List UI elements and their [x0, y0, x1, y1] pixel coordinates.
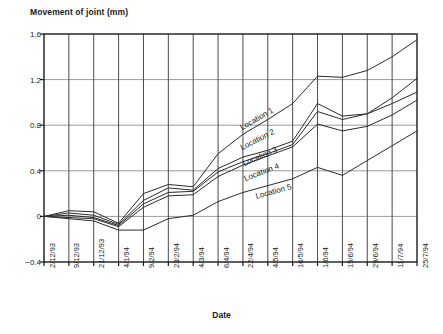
- x-tick-label: 4/1/94: [122, 247, 131, 268]
- y-axis-tick-labels: −0.400.40.81.21.6: [0, 0, 41, 334]
- x-tick-label: 4/3/94: [197, 247, 206, 268]
- x-tick-label: 9/12/93: [72, 243, 81, 268]
- y-tick-label: −0.4: [25, 258, 41, 267]
- plot-frame: [44, 34, 417, 262]
- x-tick-label: 9/2/94: [147, 247, 156, 268]
- x-tick-label: 21/12/93: [97, 239, 106, 268]
- x-tick-label: 1/6/94: [321, 247, 330, 268]
- y-tick-label: 1.6: [30, 30, 41, 39]
- x-tick-label: 29/6/94: [371, 243, 380, 268]
- y-tick-label: 1.2: [30, 75, 41, 84]
- x-tick-label: 25/7/94: [421, 243, 430, 268]
- x-tick-label: 23/2/94: [172, 243, 181, 268]
- y-tick-label: 0: [37, 212, 41, 221]
- x-tick-label: 2/12/93: [48, 243, 57, 268]
- axis-ticks: [40, 34, 417, 266]
- x-tick-label: 6/4/94: [222, 247, 231, 268]
- plot-area: [0, 0, 443, 334]
- chart-title: Movement of joint (mm): [30, 7, 128, 17]
- x-tick-label: 15/6/94: [346, 243, 355, 268]
- x-tick-label: 16/5/94: [296, 243, 305, 268]
- data-lines: [44, 40, 417, 230]
- y-tick-label: 0.8: [30, 121, 41, 130]
- x-tick-label: 22/4/94: [246, 243, 255, 268]
- x-tick-label: 4/5/94: [271, 247, 280, 268]
- y-tick-label: 0.4: [30, 166, 41, 175]
- chart-figure: Movement of joint (mm) Date −0.400.40.81…: [0, 0, 443, 334]
- gridlines: [44, 34, 417, 262]
- x-tick-label: 11/7/94: [396, 244, 405, 268]
- x-axis-title: Date: [0, 310, 443, 320]
